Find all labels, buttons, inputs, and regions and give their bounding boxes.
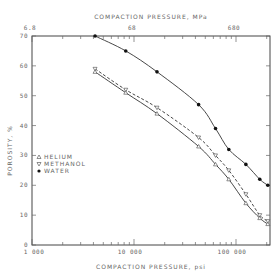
y-tick-label: 50 (20, 92, 28, 99)
x2-tick-label: 68 (128, 24, 136, 31)
y-tick-label: 40 (20, 122, 28, 129)
series-water-line (95, 36, 268, 185)
x2-tick-label: 6.8 (24, 24, 36, 31)
y-tick-label: 10 (20, 211, 28, 218)
x2-axis-title: COMPACTION PRESSURE, MPa (94, 13, 208, 20)
series-helium-markers (93, 70, 270, 226)
legend: HELIUMMETHANOLWATER (37, 153, 86, 174)
x-axis-title: COMPACTION PRESSURE, psi (96, 263, 206, 271)
y-tick-label: 20 (20, 181, 28, 188)
x2-tick-label: 680 (228, 24, 240, 31)
series-water-markers (93, 34, 269, 187)
y-tick-label: 70 (20, 32, 28, 39)
legend-item-methanol: METHANOL (44, 160, 86, 167)
x-tick-label: 100 000 (218, 248, 247, 255)
series-helium-line (95, 72, 268, 224)
legend-item-helium: HELIUM (44, 153, 73, 160)
y-tick-label: 0 (24, 241, 28, 248)
legend-item-water: WATER (44, 167, 70, 174)
x-tick-label: 1 000 (24, 248, 45, 255)
y-tick-label: 60 (20, 62, 28, 69)
x-tick-label: 10 000 (118, 248, 143, 255)
y-axis-title: POROSITY, % (6, 125, 13, 176)
y-tick-label: 30 (20, 151, 28, 158)
porosity-chart: 0102030405060701 00010 000100 0006.86868… (0, 0, 280, 278)
